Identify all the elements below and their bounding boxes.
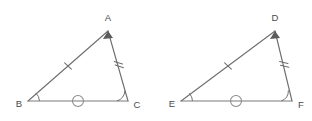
- angle-mark-e: [189, 93, 192, 101]
- vertex-label-c: C: [134, 99, 141, 110]
- angle-mark-c: [117, 91, 125, 101]
- side-df-tick-2: [281, 65, 289, 67]
- angle-mark-f: [281, 90, 288, 101]
- vertex-label-b: B: [16, 98, 22, 109]
- side-df-tick-1: [280, 62, 288, 64]
- geometry-canvas: A B C D E F: [0, 0, 312, 121]
- angle-mark-b: [36, 93, 40, 101]
- vertex-label-d: D: [272, 12, 279, 23]
- triangle-def: D E F: [169, 12, 304, 110]
- vertex-d-dot: [270, 31, 280, 39]
- vertex-a-dot: [103, 31, 113, 39]
- side-ac-tick-2: [115, 65, 123, 68]
- vertex-label-e: E: [169, 98, 175, 109]
- vertex-label-f: F: [298, 99, 304, 110]
- vertex-label-a: A: [105, 12, 112, 23]
- geometry-diagram: A B C D E F: [0, 0, 312, 121]
- triangle-abc: A B C: [16, 12, 141, 110]
- side-ac-tick-1: [114, 61, 122, 64]
